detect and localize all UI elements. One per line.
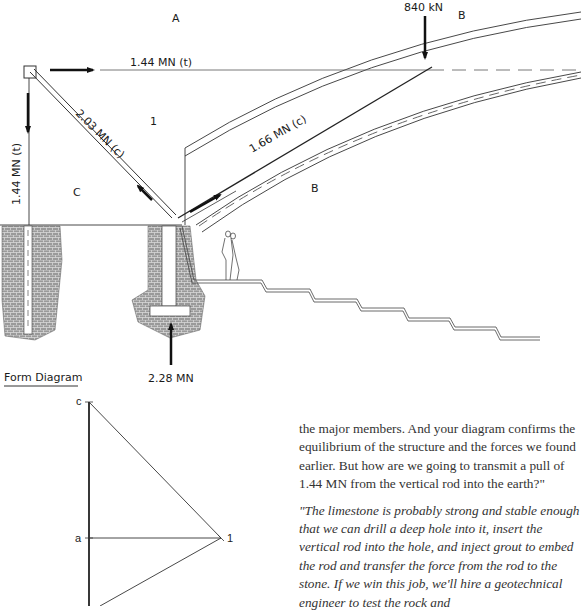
space-label-c: C (73, 186, 81, 199)
foundation-footing (150, 306, 190, 316)
space-label-b-top: B (458, 9, 466, 22)
human-figures-icon (222, 231, 239, 280)
form-diagram-caption: Form Diagram (4, 371, 82, 384)
space-label-a: A (172, 12, 180, 25)
force-point-a: a (75, 532, 82, 544)
arch-thrust-force-label: 1.66 MN (c) (247, 112, 309, 155)
diagonal-force-label: 2.03 MN (c) (73, 107, 127, 161)
reaction-force-label: 2.28 MN (148, 372, 194, 385)
vertical-rod-force-label: 1.44 MN (t) (10, 143, 23, 205)
force-line-c-1 (89, 402, 221, 538)
stepped-terrace (180, 226, 540, 340)
space-label-1: 1 (150, 115, 157, 128)
force-point-1: 1 (227, 532, 233, 544)
force-point-c: c (76, 395, 82, 407)
body-paragraph-2: "The limestone is probably strong and st… (299, 502, 581, 612)
body-paragraph-1: the major members. And your diagram conf… (299, 420, 581, 494)
foundation-pier (162, 226, 176, 306)
top-tie-force-label: 1.44 MN (t) (130, 56, 192, 69)
applied-load-label: 840 kN (404, 1, 443, 14)
space-label-b-lower: B (311, 182, 319, 195)
form-diagram: 1.44 MN (t) 1.44 MN (t) 2.03 MN (c) 1.66… (0, 1, 581, 386)
arch-thrust-line (178, 67, 432, 222)
body-text: the major members. And your diagram conf… (299, 420, 581, 614)
force-line-1-b (100, 538, 221, 606)
arch (185, 12, 581, 232)
force-diagram: c a 1 (75, 395, 233, 606)
